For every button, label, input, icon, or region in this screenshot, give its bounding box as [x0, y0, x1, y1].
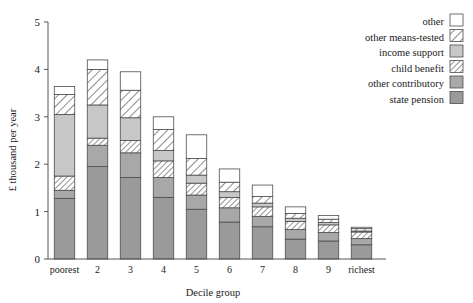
x-axis: poorest23456789richest	[48, 259, 386, 275]
bar-segment	[285, 230, 305, 239]
bar-2	[87, 60, 107, 259]
x-tick-label: richest	[348, 264, 375, 275]
x-tick-label: 7	[260, 264, 265, 275]
bar-segment	[219, 197, 239, 207]
bar-segment	[186, 183, 206, 195]
bar-segment	[153, 177, 173, 197]
bars-group	[54, 60, 371, 259]
bar-segment	[219, 169, 239, 182]
bar-segment	[351, 245, 371, 259]
bar-segment	[318, 241, 338, 259]
bar-segment	[120, 141, 140, 153]
y-axis: 012345	[35, 16, 49, 265]
chart-container: 012345 poorest23456789richest otherother…	[0, 0, 473, 303]
bar-segment	[120, 118, 140, 141]
bar-segment	[219, 222, 239, 259]
y-tick-label: 1	[35, 206, 41, 218]
bar-segment	[186, 159, 206, 176]
bar-segment	[186, 175, 206, 183]
bar-segment	[54, 198, 74, 259]
x-tick-label: 9	[326, 264, 331, 275]
bar-segment	[351, 232, 371, 239]
bar-segment	[285, 218, 305, 221]
bar-segment	[252, 216, 272, 226]
legend-label: other contributory	[368, 78, 445, 89]
bar-segment	[285, 214, 305, 219]
bar-segment	[153, 161, 173, 178]
y-tick-label: 0	[35, 253, 41, 265]
bar-segment	[153, 150, 173, 160]
y-tick-label: 2	[35, 158, 41, 170]
bar-segment	[87, 69, 107, 105]
bar-segment	[54, 190, 74, 198]
bar-segment	[87, 138, 107, 145]
legend-swatch	[450, 61, 463, 73]
bar-3	[120, 72, 140, 259]
bar-segment	[219, 182, 239, 191]
legend-label: other	[422, 16, 444, 27]
x-axis-title: Decile group	[186, 287, 241, 298]
bar-segment	[153, 197, 173, 259]
bar-segment	[87, 145, 107, 166]
bar-8	[285, 207, 305, 259]
bar-6	[219, 169, 239, 259]
bar-5	[186, 135, 206, 259]
bar-segment	[87, 167, 107, 259]
bar-segment	[87, 105, 107, 138]
x-tick-label: poorest	[50, 264, 80, 275]
bar-segment	[54, 95, 74, 115]
legend-label: other means-tested	[365, 32, 445, 43]
bar-segment	[54, 176, 74, 190]
bar-segment	[186, 135, 206, 159]
legend-swatch	[450, 30, 463, 42]
bar-segment	[186, 195, 206, 209]
bar-segment	[219, 192, 239, 198]
bar-segment	[318, 225, 338, 233]
bar-segment	[252, 185, 272, 196]
x-tick-label: 8	[293, 264, 298, 275]
bar-segment	[285, 222, 305, 230]
legend-swatch	[450, 92, 463, 104]
bar-segment	[120, 177, 140, 259]
x-tick-label: 4	[161, 264, 166, 275]
bar-segment	[318, 219, 338, 222]
legend-swatch	[450, 45, 463, 57]
legend-label: child benefit	[391, 63, 444, 74]
y-axis-title: £ thousand per year	[7, 108, 18, 191]
y-tick-label: 5	[35, 16, 41, 28]
bar-segment	[351, 227, 371, 228]
bar-segment	[87, 60, 107, 69]
legend-label: state pension	[389, 94, 444, 105]
legend-swatch	[450, 76, 463, 88]
stacked-bar-chart: 012345 poorest23456789richest otherother…	[0, 0, 473, 303]
bar-richest	[351, 227, 371, 259]
x-tick-label: 3	[128, 264, 133, 275]
bar-segment	[351, 239, 371, 245]
bar-segment	[285, 239, 305, 259]
bar-segment	[318, 232, 338, 241]
legend-swatch	[450, 14, 463, 26]
bar-segment	[153, 130, 173, 151]
x-tick-label: 6	[227, 264, 232, 275]
bar-segment	[120, 90, 140, 117]
legend-label: income support	[379, 47, 444, 58]
bar-7	[252, 185, 272, 259]
bar-segment	[54, 86, 74, 94]
bar-segment	[252, 207, 272, 216]
bar-9	[318, 215, 338, 259]
bar-segment	[120, 72, 140, 90]
bar-segment	[252, 203, 272, 207]
bar-4	[153, 117, 173, 259]
bar-segment	[252, 196, 272, 203]
chart-legend: otherother means-testedincome supportchi…	[365, 14, 463, 105]
x-tick-label: 2	[95, 264, 100, 275]
y-tick-label: 3	[35, 111, 41, 123]
bar-segment	[285, 207, 305, 214]
bar-segment	[153, 117, 173, 130]
bar-segment	[252, 227, 272, 259]
bar-segment	[186, 209, 206, 259]
bar-segment	[318, 215, 338, 219]
bar-segment	[219, 208, 239, 222]
y-tick-label: 4	[35, 63, 41, 75]
bar-poorest	[54, 86, 74, 259]
